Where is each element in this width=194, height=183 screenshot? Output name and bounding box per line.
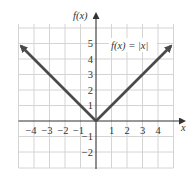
right-ray <box>96 46 171 121</box>
absolute-value-graph: f(x) x f(x) = |x| −4 −3 −2 −1 1 2 3 4 5 … <box>0 0 194 183</box>
y-tick: −2 <box>82 147 93 158</box>
y-tick: 2 <box>88 85 93 96</box>
x-tick: −2 <box>57 125 68 136</box>
y-axis-label: f(x) <box>73 10 88 22</box>
y-tick: 3 <box>88 69 93 80</box>
x-tick: 2 <box>124 125 129 136</box>
y-tick: −1 <box>82 131 93 142</box>
x-tick-labels: −4 −3 −2 −1 1 2 3 4 <box>25 125 161 136</box>
x-tick: 1 <box>109 125 114 136</box>
x-tick: −3 <box>41 125 52 136</box>
y-tick-labels: 5 4 3 2 1 −1 −2 <box>82 38 94 158</box>
left-ray <box>21 46 96 121</box>
y-tick: 5 <box>88 38 93 49</box>
x-tick: 3 <box>140 125 145 136</box>
x-axis-label: x <box>180 122 186 133</box>
x-tick: 4 <box>155 125 161 136</box>
function-label: f(x) = |x| <box>111 40 148 52</box>
x-tick: −4 <box>25 125 37 136</box>
axes <box>19 14 185 169</box>
y-tick: 1 <box>88 100 93 111</box>
y-tick: 4 <box>88 54 94 65</box>
